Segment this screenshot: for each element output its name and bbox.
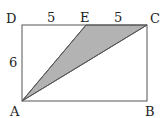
- measure-ec: 5: [114, 10, 122, 25]
- geometry-diagram: D E C A B 5 5 6: [0, 0, 168, 118]
- label-e: E: [80, 10, 90, 25]
- label-d: D: [6, 11, 16, 26]
- label-a: A: [9, 104, 20, 118]
- measure-de: 5: [47, 10, 55, 25]
- label-b: B: [145, 104, 155, 118]
- label-c: C: [150, 11, 160, 26]
- diagram-canvas: D E C A B 5 5 6: [0, 0, 168, 118]
- measure-ad: 6: [9, 55, 17, 70]
